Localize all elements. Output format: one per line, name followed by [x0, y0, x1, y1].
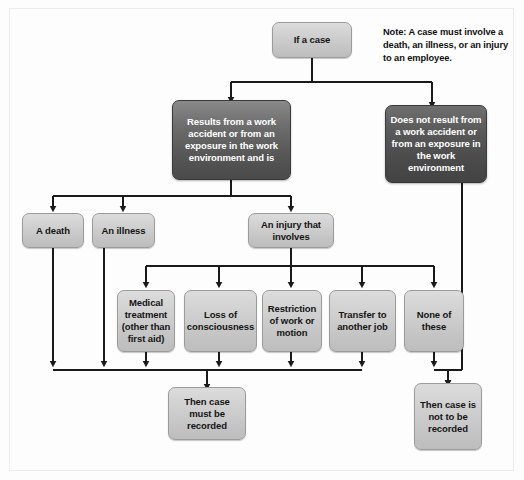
node-injury-loss-of-consciousness-label: Loss of consciousness [184, 309, 257, 333]
node-injury-restriction[interactable]: Restriction of work or motion [262, 290, 322, 352]
node-death-label: A death [33, 225, 73, 237]
node-result-recorded[interactable]: Then case must be recorded [168, 387, 246, 440]
node-start[interactable]: If a case [272, 22, 352, 58]
node-injury-medical-treatment[interactable]: Medical treatment (other than first aid) [117, 290, 175, 352]
flowchart-canvas: If a case Note: A case must involve a de… [0, 0, 524, 480]
node-result-not-recorded[interactable]: Then case is not to be recorded [414, 383, 482, 450]
node-injury-medical-treatment-label: Medical treatment (other than first aid) [118, 297, 174, 345]
node-branch-no[interactable]: Does not result from a work accident or … [385, 105, 487, 183]
node-injury-loss-of-consciousness[interactable]: Loss of consciousness [184, 290, 257, 352]
node-injury-restriction-label: Restriction of work or motion [263, 303, 321, 339]
node-branch-yes[interactable]: Results from a work accident or from an … [172, 100, 291, 180]
node-result-not-recorded-label: Then case is not to be recorded [415, 399, 481, 435]
node-injury[interactable]: An injury that involves [248, 213, 334, 248]
node-injury-transfer[interactable]: Transfer to another job [329, 290, 396, 352]
node-injury-none[interactable]: None of these [404, 290, 464, 352]
node-result-recorded-label: Then case must be recorded [169, 396, 245, 432]
node-illness-label: An illness [99, 225, 149, 237]
node-injury-none-label: None of these [405, 309, 463, 333]
node-illness[interactable]: An illness [92, 213, 155, 248]
node-branch-yes-label: Results from a work accident or from an … [173, 116, 290, 164]
node-death[interactable]: A death [22, 213, 84, 248]
node-injury-label: An injury that involves [249, 219, 333, 243]
node-injury-transfer-label: Transfer to another job [330, 309, 395, 333]
node-start-label: If a case [291, 34, 334, 46]
diagram-note: Note: A case must involve a death, an il… [383, 26, 515, 66]
diagram-note-text: Note: A case must involve a death, an il… [383, 27, 508, 63]
node-branch-no-label: Does not result from a work accident or … [386, 114, 486, 174]
